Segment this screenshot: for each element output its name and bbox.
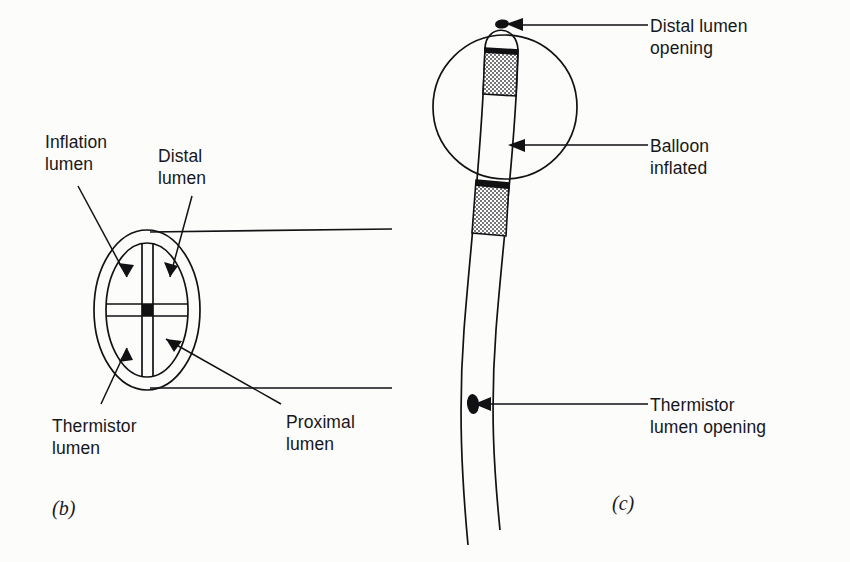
panel-c-group: Distal lumen opening Balloon inflated Th… — [433, 16, 766, 545]
leader-thermistor-lumen-opening — [474, 397, 648, 411]
arrowhead-distal-opening — [506, 18, 523, 31]
balloon-collar-lower — [472, 180, 509, 236]
label-distal-lumen-line2: lumen — [158, 168, 206, 188]
arrowhead-thermistor — [119, 348, 133, 362]
label-distal-lumen-line1: Distal — [158, 146, 202, 166]
leader-balloon-inflated — [508, 139, 648, 152]
catheter-wall-top — [150, 229, 392, 232]
label-thermistor-lumen-line1: Thermistor — [52, 416, 137, 436]
label-thermistor-lumen-line2: lumen — [52, 438, 100, 458]
label-inflation-lumen-line2: lumen — [45, 154, 93, 174]
leader-distal-lumen-opening — [506, 18, 648, 31]
catheter-shaft-left-wall — [461, 48, 485, 545]
catheter-tip-cap — [485, 30, 518, 50]
arrowhead-balloon — [508, 139, 525, 152]
label-distal-lumen-opening-line1: Distal lumen — [650, 16, 747, 36]
label-thermistor-lumen-opening-line1: Thermistor — [650, 395, 735, 415]
label-thermistor-lumen-opening-line2: lumen opening — [650, 417, 766, 437]
panel-b-tag: (b) — [52, 497, 76, 520]
leader-line-proximal — [166, 339, 281, 404]
label-proximal-lumen-line2: lumen — [286, 434, 334, 454]
label-balloon-inflated-line1: Balloon — [650, 136, 709, 156]
label-proximal-lumen-line1: Proximal — [286, 412, 355, 432]
balloon-collar-upper — [483, 48, 518, 96]
septum-center — [142, 304, 153, 316]
label-inflation-lumen-line1: Inflation — [45, 132, 107, 152]
label-balloon-inflated-line2: inflated — [650, 158, 707, 178]
arrowhead-inflation — [118, 263, 134, 277]
label-distal-lumen-opening-line2: opening — [650, 38, 713, 58]
catheter-shaft-right-wall — [493, 50, 518, 530]
panel-b-group: Inflation lumen Distal lumen Thermistor … — [45, 132, 392, 520]
leader-proximal-lumen — [166, 339, 281, 404]
figure-canvas: Inflation lumen Distal lumen Thermistor … — [0, 0, 850, 562]
leader-inflation-lumen — [78, 186, 134, 277]
panel-c-tag: (c) — [612, 492, 635, 515]
collar-upper-band — [483, 48, 518, 96]
catheter-figure: Inflation lumen Distal lumen Thermistor … — [0, 0, 850, 562]
arrowhead-distal — [164, 262, 178, 277]
